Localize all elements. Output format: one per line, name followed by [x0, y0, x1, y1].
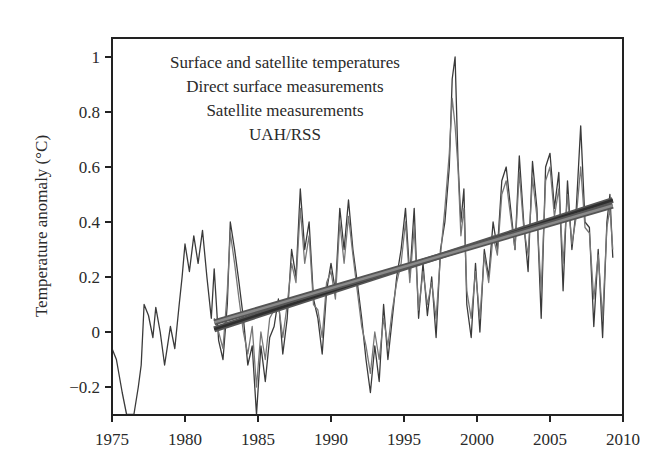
y-tick-label: 0.2 — [79, 268, 100, 287]
x-tick-label: 1975 — [95, 430, 129, 449]
x-tick-label: 1995 — [387, 430, 421, 449]
legend-item-satellite: Satellite measurements — [206, 101, 363, 120]
y-tick-label: 0.6 — [79, 158, 100, 177]
x-tick-label: 1990 — [314, 430, 348, 449]
x-tick-label: 1985 — [241, 430, 275, 449]
x-tick-label: 2000 — [460, 430, 494, 449]
y-tick-label: 0 — [92, 323, 101, 342]
x-tick-label: 2010 — [606, 430, 640, 449]
x-axis: 19751980198519901995200020052010 — [95, 415, 640, 449]
y-axis-label: Temperature anomaly (°C) — [32, 135, 51, 317]
x-tick-label: 1980 — [168, 430, 202, 449]
y-axis: −0.200.20.40.60.81 — [69, 48, 112, 397]
y-tick-label: 0.4 — [79, 213, 101, 232]
legend-title: Surface and satellite temperatures — [170, 53, 400, 72]
y-tick-label: −0.2 — [69, 378, 100, 397]
y-tick-label: 1 — [92, 48, 101, 67]
legend-item-surface: Direct surface measurements — [186, 77, 383, 96]
temperature-anomaly-chart: 19751980198519901995200020052010 −0.200.… — [0, 0, 665, 473]
legend-item-uah-rss: UAH/RSS — [249, 125, 321, 144]
y-tick-label: 0.8 — [79, 103, 100, 122]
x-tick-label: 2005 — [533, 430, 567, 449]
legend: Surface and satellite temperatures Direc… — [170, 53, 400, 144]
